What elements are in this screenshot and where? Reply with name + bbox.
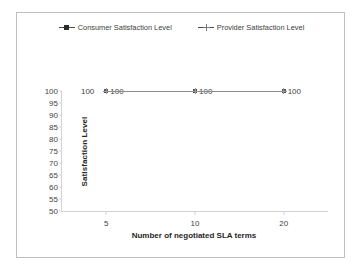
legend-marker-cross-icon — [198, 24, 214, 32]
y-axis-tick-label: 55 — [32, 195, 58, 204]
y-axis-tick-mark — [59, 175, 62, 176]
data-label: 100 — [288, 87, 301, 96]
plot-area: 1009590858075706560555051020100100100100 — [61, 91, 328, 212]
y-axis-tick-mark — [59, 187, 62, 188]
y-axis-tick-mark — [59, 199, 62, 200]
x-axis-tick-mark — [106, 211, 107, 215]
y-axis-tick-label: 50 — [32, 207, 58, 216]
y-axis-tick-mark — [59, 139, 62, 140]
data-point[interactable] — [192, 88, 198, 94]
chart-root: Consumer Satisfaction Level Provider Sat… — [0, 0, 362, 274]
y-axis-tick-mark — [59, 151, 62, 152]
x-axis-tick-mark — [283, 211, 284, 215]
x-axis-tick-label: 10 — [191, 219, 200, 228]
data-point[interactable] — [103, 88, 109, 94]
y-axis-tick-label: 75 — [32, 147, 58, 156]
y-axis-tick-label: 60 — [32, 183, 58, 192]
x-axis-title: Number of negotiated SLA terms — [61, 231, 327, 240]
y-axis-tick-mark — [59, 163, 62, 164]
y-axis-tick-label: 90 — [32, 111, 58, 120]
y-axis-tick-label: 95 — [32, 99, 58, 108]
legend-label-consumer: Consumer Satisfaction Level — [78, 23, 172, 32]
y-axis-tick-label: 100 — [32, 87, 58, 96]
legend-label-provider: Provider Satisfaction Level — [217, 23, 305, 32]
legend-marker-filled-square-icon — [59, 24, 75, 32]
x-axis-tick-label: 20 — [279, 219, 288, 228]
data-label-extra: 100 — [81, 87, 94, 96]
y-axis-tick-label: 65 — [32, 171, 58, 180]
series-line — [106, 91, 195, 92]
y-axis-tick-label: 70 — [32, 159, 58, 168]
chart-frame: Consumer Satisfaction Level Provider Sat… — [16, 12, 345, 258]
series-line — [195, 91, 284, 92]
y-axis-tick-mark — [59, 211, 62, 212]
y-axis-tick-mark — [59, 91, 62, 92]
y-axis-tick-mark — [59, 127, 62, 128]
legend-item-consumer[interactable]: Consumer Satisfaction Level — [59, 23, 172, 32]
x-axis-tick-label: 5 — [104, 219, 108, 228]
y-axis-tick-mark — [59, 103, 62, 104]
legend-item-provider[interactable]: Provider Satisfaction Level — [198, 23, 305, 32]
data-point[interactable] — [281, 88, 287, 94]
y-axis-tick-label: 85 — [32, 123, 58, 132]
chart-legend: Consumer Satisfaction Level Provider Sat… — [17, 23, 346, 32]
y-axis-tick-label: 80 — [32, 135, 58, 144]
y-axis-tick-mark — [59, 115, 62, 116]
x-axis-tick-mark — [195, 211, 196, 215]
